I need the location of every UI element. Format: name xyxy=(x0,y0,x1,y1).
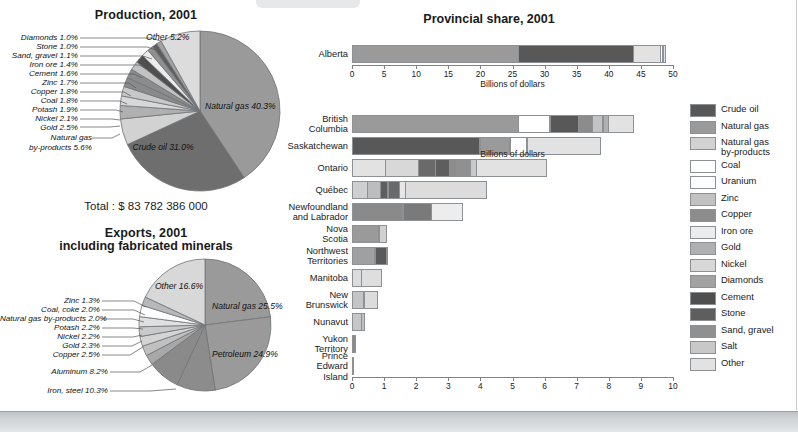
bar-segment-copper xyxy=(578,115,592,133)
legend-swatch-icon xyxy=(690,358,716,371)
legend-swatch-icon xyxy=(690,176,716,189)
legend-item-natural-gas[interactable]: Natural gas xyxy=(690,121,794,136)
pie-callout-iron-ore: Iron ore 1.4% xyxy=(0,60,78,69)
legend-label: Cement xyxy=(721,292,754,302)
axis-tick-label: 8 xyxy=(606,381,611,391)
legend-item-nickel[interactable]: Nickel xyxy=(690,259,794,274)
legend-item-iron-ore[interactable]: Iron ore xyxy=(690,226,794,241)
axis-tick-label: 0 xyxy=(350,69,355,79)
bar-row: Nova Scotia xyxy=(352,223,673,245)
legend-item-zinc[interactable]: Zinc xyxy=(690,193,794,208)
bar-segment-nickel xyxy=(385,159,419,177)
legend-label: Crude oil xyxy=(721,104,759,114)
pie-callout-cement: Cement 1.6% xyxy=(0,69,78,78)
legend-item-coal[interactable]: Coal xyxy=(690,160,794,175)
bar-row-label-alberta: Alberta xyxy=(319,49,348,59)
bar-segment-nickel xyxy=(367,181,380,199)
legend-item-salt[interactable]: Salt xyxy=(690,341,794,356)
bar-new-brunswick xyxy=(352,291,673,309)
bar-segment-crude-oil xyxy=(352,203,403,221)
bar-newfoundland-and-labrador xyxy=(352,203,673,221)
bar-row: Nunavut xyxy=(352,311,673,333)
axis-tick-label: 15 xyxy=(444,69,453,79)
exports-callout-zinc: Zinc 1.3% xyxy=(0,296,100,305)
pie-callout-ng-byproducts: Natural gas by-products 5.6% xyxy=(0,133,92,152)
legend-item-other[interactable]: Other xyxy=(690,358,794,373)
exports-pie-subtitle: including fabricated minerals xyxy=(0,239,292,253)
pie-callout-potash: Potash 1.9% xyxy=(0,105,78,114)
bar-row: Yukon Territory xyxy=(352,333,673,355)
legend-label: Uranium xyxy=(721,176,756,186)
pie-callout-zinc: Zinc 1.7% xyxy=(0,78,78,87)
bar-british-columbia xyxy=(352,115,673,133)
exports-pie-title: Exports, 2001 xyxy=(0,226,292,240)
pie-callout-stone: Stone 1.0% xyxy=(0,42,78,51)
legend-item-cement[interactable]: Cement xyxy=(690,292,794,307)
bar-segment-diamonds xyxy=(375,247,387,265)
bar-northwest-territories xyxy=(352,247,673,265)
legend-item-gold[interactable]: Gold xyxy=(690,242,794,257)
axis-tick-label: 10 xyxy=(668,381,677,391)
axis-tick-label: 5 xyxy=(510,381,515,391)
legend-item-crude-oil[interactable]: Crude oil xyxy=(690,104,794,119)
legend-label: Other xyxy=(721,358,744,368)
legend-label: Coal xyxy=(721,160,740,170)
legend-swatch-icon xyxy=(690,308,716,321)
axis-tick-label: 40 xyxy=(604,69,613,79)
bar-row: Newfoundland and Labrador xyxy=(352,201,673,223)
bar-nunavut xyxy=(352,313,673,331)
legend-label: Copper xyxy=(721,209,752,219)
legend-item-stone[interactable]: Stone xyxy=(690,308,794,323)
bar-row-label: Ontario xyxy=(318,163,349,173)
legend-item-natural-gas-by-products[interactable]: Natural gas by-products xyxy=(690,137,794,158)
axis-tick-label: 2 xyxy=(414,381,419,391)
bar-segment-other xyxy=(361,313,365,331)
legend-item-sand-gravel[interactable]: Sand, gravel xyxy=(690,325,794,340)
legend-label: Natural gas by-products xyxy=(721,137,770,157)
exports-inside-other: Other 16.6% xyxy=(154,281,204,291)
bar-segment-crude-oil xyxy=(550,115,579,133)
exports-callout-gold: Gold 2.3% xyxy=(0,341,100,350)
bar-segment-crude-oil xyxy=(518,45,634,63)
bar-segment-sand-gravel xyxy=(457,159,471,177)
pie-inside-crude-oil: Crude oil 31.0% xyxy=(132,142,194,152)
legend-item-diamonds[interactable]: Diamonds xyxy=(690,275,794,290)
legend-swatch-icon xyxy=(690,121,716,134)
bar-ontario xyxy=(352,159,673,177)
legend-item-copper[interactable]: Copper xyxy=(690,209,794,224)
bar-segment-other xyxy=(405,181,487,199)
bar-segment-zinc xyxy=(352,291,364,309)
bar-row: Ontario xyxy=(352,157,673,179)
legend-item-uranium[interactable]: Uranium xyxy=(690,176,794,191)
bar-segment-natural-gas xyxy=(352,45,519,63)
bar-row: Northwest Territories xyxy=(352,245,673,267)
pie-callout-coal: Coal 1.8% xyxy=(0,96,78,105)
axis-tick-label: 45 xyxy=(636,69,645,79)
bar-segment-natural-gas-by-products xyxy=(633,45,661,63)
bar-yukon-territory xyxy=(352,335,673,353)
production-pie-chart: Production, 2001 xyxy=(0,8,292,212)
axis-tick-label: 3 xyxy=(446,381,451,391)
legend-label: Iron ore xyxy=(721,226,753,236)
bar-segment-gold xyxy=(352,335,356,353)
bar-segment-other xyxy=(361,269,382,287)
legend-swatch-icon xyxy=(690,209,716,222)
pie-inside-natural-gas: Natural gas 40.3% xyxy=(205,101,271,111)
pie-callout-sand-gravel: Sand, gravel 1.1% xyxy=(0,51,78,60)
legend-label: Zinc xyxy=(721,193,739,203)
bar-row-label: Manitoba xyxy=(310,273,348,283)
axis-tick-label: 0 xyxy=(350,381,355,391)
exports-callout-coal-coke: Coal, coke 2.0% xyxy=(0,305,100,314)
legend-swatch-icon xyxy=(690,292,716,305)
axis-tick-label: 7 xyxy=(574,381,579,391)
footer-strip xyxy=(0,411,798,432)
legend-label: Diamonds xyxy=(721,275,763,285)
bar-qu-bec xyxy=(352,181,673,199)
bar-row: Prince Edward Island xyxy=(352,355,673,377)
legend: Crude oilNatural gasNatural gas by-produ… xyxy=(690,104,794,374)
provinces-axis-title: Billions of dollars xyxy=(352,149,673,159)
bar-row-label: New Brunswick xyxy=(306,290,348,311)
bar-segment-other xyxy=(352,357,354,375)
legend-swatch-icon xyxy=(690,137,716,150)
pie-charts-panel: Production, 2001 xyxy=(0,8,292,408)
